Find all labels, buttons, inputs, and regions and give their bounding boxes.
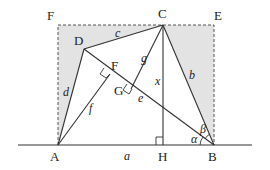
label-F-mid: F [111,58,118,73]
label-A: A [50,149,60,164]
label-H: H [158,149,167,164]
label-f: f [89,101,94,115]
label-x: x [154,74,161,88]
label-F-top: F [47,8,54,23]
label-E: E [214,8,222,23]
label-D: D [74,33,83,48]
label-C: C [158,6,167,21]
label-beta: β [199,122,206,136]
label-B: B [208,149,217,164]
label-g: g [141,51,147,65]
label-alpha: α [191,132,198,146]
label-b: b [189,68,195,82]
label-a: a [124,149,130,163]
angle-arc-alpha [200,137,203,145]
geometry-diagram: F C E D F G A H B a b c d e f g x α β [0,0,270,170]
label-d: d [63,85,70,99]
label-e: e [138,91,144,105]
right-angle-mark-G [123,84,132,94]
label-c: c [115,26,121,40]
label-G: G [114,83,123,98]
right-angle-mark-H [156,137,163,145]
